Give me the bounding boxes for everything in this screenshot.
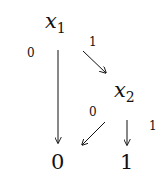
node-x2-subscript: 2 <box>126 89 135 105</box>
node-x2-base: x <box>114 78 126 102</box>
edge-label-x1-x2: 1 <box>89 36 97 48</box>
leaf-0: 0 <box>51 152 64 173</box>
edge-label-x2-leaf0: 0 <box>89 106 97 118</box>
leaf-1: 1 <box>120 152 133 173</box>
node-x1-base: x <box>45 9 57 33</box>
node-x1: x1 <box>45 11 66 35</box>
edges-layer <box>0 0 164 180</box>
node-x1-subscript: 1 <box>57 20 66 36</box>
edge-label-x2-leaf1: 1 <box>149 120 157 132</box>
edge-x2-leaf0 <box>82 122 105 145</box>
edge-x1-x2 <box>83 51 106 73</box>
node-x2: x2 <box>114 80 135 104</box>
bdd-diagram: x1 x2 0 1 0 1 0 1 <box>0 0 164 180</box>
edge-label-x1-leaf0: 0 <box>27 47 35 59</box>
